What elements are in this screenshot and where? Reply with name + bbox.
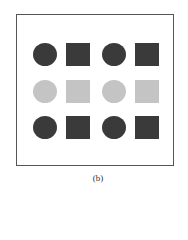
dark-circle-r3c1 bbox=[33, 116, 57, 139]
light-square-r2c4 bbox=[135, 80, 159, 103]
dark-circle-r1c1 bbox=[33, 43, 57, 66]
light-circle-r2c1 bbox=[33, 80, 57, 103]
dark-square-r3c2 bbox=[66, 116, 90, 139]
dark-square-r1c2 bbox=[66, 43, 90, 66]
light-circle-r2c3 bbox=[102, 80, 126, 103]
dark-square-r1c4 bbox=[135, 43, 159, 66]
dark-square-r3c4 bbox=[135, 116, 159, 139]
light-square-r2c2 bbox=[66, 80, 90, 103]
dark-circle-r3c3 bbox=[102, 116, 126, 139]
figure-caption: (b) bbox=[0, 173, 188, 183]
dark-circle-r1c3 bbox=[102, 43, 126, 66]
